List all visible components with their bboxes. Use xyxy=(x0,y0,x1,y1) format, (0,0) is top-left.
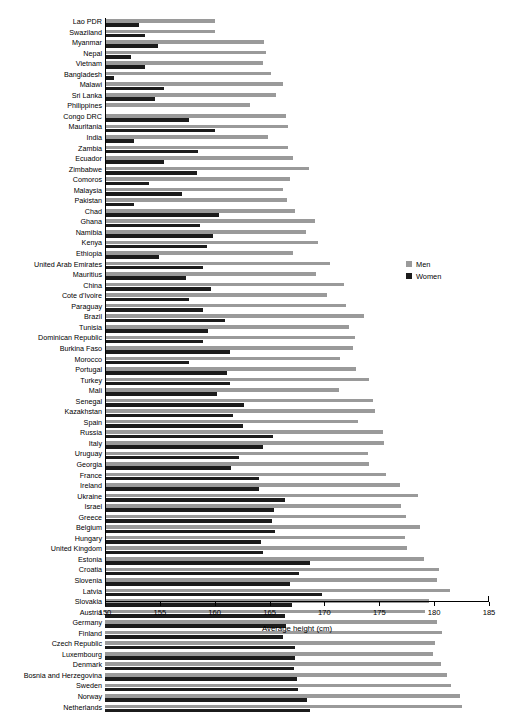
bar-women xyxy=(105,540,261,544)
bar-men xyxy=(105,589,450,593)
bar-women xyxy=(105,498,285,502)
category-label: Ethiopia xyxy=(0,249,102,260)
bar-group xyxy=(105,29,489,40)
category-label: Russia xyxy=(0,428,102,439)
bar-women xyxy=(105,139,134,143)
bar-women xyxy=(105,424,243,428)
bar-men xyxy=(105,536,405,540)
bar-men xyxy=(105,378,369,382)
bar-women xyxy=(105,44,158,48)
category-label: Portugal xyxy=(0,365,102,376)
bar-group xyxy=(105,366,489,377)
x-tick-label: 185 xyxy=(469,608,509,617)
bar-women xyxy=(105,361,189,365)
bar-women xyxy=(105,667,294,671)
bar-women xyxy=(105,603,292,607)
bar-men xyxy=(105,515,406,519)
category-label: Mauritania xyxy=(0,122,102,133)
category-label: Cote d'Ivoire xyxy=(0,291,102,302)
bar-men xyxy=(105,146,288,150)
category-label: Italy xyxy=(0,439,102,450)
category-label: Zimbabwe xyxy=(0,165,102,176)
x-tick xyxy=(270,602,271,606)
bar-women xyxy=(105,646,295,650)
bar-women xyxy=(105,160,164,164)
x-tick xyxy=(160,602,161,606)
bar-men xyxy=(105,684,451,688)
bar-group xyxy=(105,566,489,577)
bar-women xyxy=(105,414,233,418)
bar-men xyxy=(105,694,460,698)
x-tick-label: 160 xyxy=(195,608,235,617)
bar-group xyxy=(105,187,489,198)
bar-women xyxy=(105,129,215,133)
bar-women xyxy=(105,487,259,491)
bar-men xyxy=(105,641,435,645)
category-label: United Kingdom xyxy=(0,544,102,555)
bar-women xyxy=(105,445,263,449)
category-label: India xyxy=(0,133,102,144)
bar-men xyxy=(105,82,283,86)
category-label: Croatia xyxy=(0,565,102,576)
bar-group xyxy=(105,651,489,662)
bar-men xyxy=(105,652,433,656)
bar-group xyxy=(105,682,489,693)
bar-group xyxy=(105,693,489,704)
bar-men xyxy=(105,103,250,107)
bar-women xyxy=(105,224,200,228)
bar-women xyxy=(105,213,219,217)
bar-group xyxy=(105,577,489,588)
x-tick-label: 180 xyxy=(414,608,454,617)
bar-group xyxy=(105,292,489,303)
bar-women xyxy=(105,23,139,27)
bar-women xyxy=(105,329,208,333)
bar-group xyxy=(105,450,489,461)
chart-row: Netherlands xyxy=(0,704,513,714)
bar-group xyxy=(105,398,489,409)
bar-women xyxy=(105,298,189,302)
category-label: Luxembourg xyxy=(0,650,102,661)
bar-men xyxy=(105,230,306,234)
category-label: Hungary xyxy=(0,534,102,545)
bar-group xyxy=(105,661,489,672)
bar-men xyxy=(105,420,358,424)
category-label: Lao PDR xyxy=(0,17,102,28)
bar-group xyxy=(105,640,489,651)
bar-group xyxy=(105,176,489,187)
bar-group xyxy=(105,334,489,345)
bar-men xyxy=(105,525,420,529)
bar-men xyxy=(105,430,383,434)
category-label: United Arab Emirates xyxy=(0,260,102,271)
bar-men xyxy=(105,388,339,392)
bar-group xyxy=(105,102,489,113)
bar-men xyxy=(105,314,364,318)
bar-women xyxy=(105,34,145,38)
bar-group xyxy=(105,472,489,483)
category-label: Germany xyxy=(0,618,102,629)
bar-men xyxy=(105,662,441,666)
category-label: Namibia xyxy=(0,228,102,239)
bar-group xyxy=(105,71,489,82)
category-label: Pakistan xyxy=(0,196,102,207)
bar-women xyxy=(105,118,189,122)
bar-group xyxy=(105,419,489,430)
bar-group xyxy=(105,556,489,567)
bar-men xyxy=(105,494,418,498)
bar-men xyxy=(105,30,215,34)
bar-women xyxy=(105,76,114,80)
bar-men xyxy=(105,557,424,561)
bar-men xyxy=(105,93,276,97)
bar-group xyxy=(105,239,489,250)
category-label: Swaziland xyxy=(0,28,102,39)
category-label: Ukraine xyxy=(0,492,102,503)
bar-women xyxy=(105,656,295,660)
category-label: Congo DRC xyxy=(0,112,102,123)
bar-group xyxy=(105,92,489,103)
bar-women xyxy=(105,392,217,396)
category-label: France xyxy=(0,471,102,482)
bar-women xyxy=(105,561,310,565)
x-tick-label: 155 xyxy=(140,608,180,617)
bar-women xyxy=(105,182,149,186)
bar-group xyxy=(105,18,489,29)
bar-group xyxy=(105,461,489,472)
